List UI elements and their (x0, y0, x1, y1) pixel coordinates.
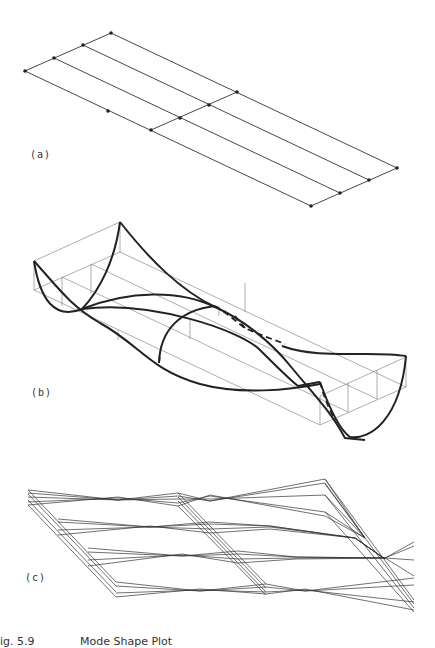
panel-b-label: (b) (31, 387, 52, 398)
panel-a-nodes (23, 31, 399, 208)
figure-caption-number: ig. 5.9 (0, 635, 35, 648)
figure-caption-title: Mode Shape Plot (80, 635, 172, 648)
panel-c-wireframes (28, 479, 414, 612)
panel-b-mode-curves (34, 222, 406, 440)
panel-b-box (34, 222, 406, 425)
panel-c-label: (c) (25, 572, 46, 583)
panel-a-grid (25, 33, 397, 206)
panel-b-hidden-curves (159, 306, 336, 420)
panel-a-label: (a) (30, 149, 51, 160)
